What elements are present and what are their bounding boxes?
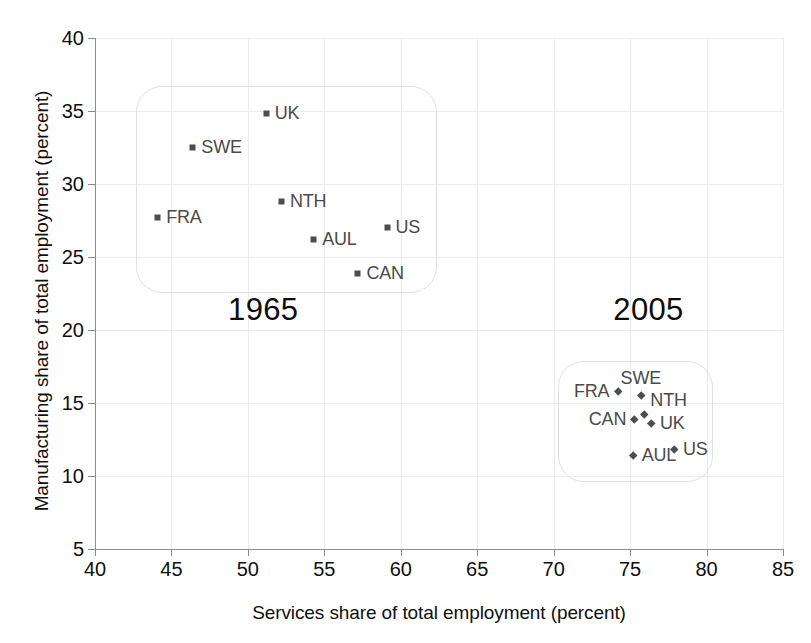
y-tick-label: 40 [62,27,84,50]
x-tick [248,549,249,556]
x-tick-label: 70 [543,558,565,581]
point-label: FRA [574,381,609,402]
marker-square-icon [311,236,317,242]
y-tick-label: 30 [62,173,84,196]
point-label: AUL [642,445,676,466]
point-label: UK [275,103,300,124]
x-tick [324,549,325,556]
plot-area: 510152025303540 40455055606570758085 196… [95,38,783,549]
group-caption-2005: 2005 [613,292,683,328]
point-label: NTH [650,389,686,410]
x-axis-line [95,549,784,550]
data-point-2005-NTH[interactable]: NTH [643,414,644,415]
x-tick-label: 65 [466,558,488,581]
y-tick-label: 20 [62,319,84,342]
y-axis-line [95,38,96,550]
marker-square-icon [263,111,269,117]
data-point-2005-CAN[interactable]: CAN [634,419,635,420]
data-point-1965-UK[interactable]: UK [266,113,267,114]
y-tick [88,111,95,112]
scatter-chart: Manufacturing share of total employment … [0,0,811,643]
x-tick [783,549,784,556]
y-tick-label: 25 [62,246,84,269]
x-tick-label: 85 [772,558,794,581]
y-tick [88,257,95,258]
marker-square-icon [155,215,161,221]
point-label: SWE [621,367,661,388]
x-axis-title: Services share of total employment (perc… [95,602,783,624]
marker-square-icon [384,225,390,231]
x-tick [707,549,708,556]
point-label: FRA [166,207,201,228]
y-tick-label: 35 [62,100,84,123]
y-tick-label: 5 [73,538,84,561]
data-point-1965-AUL[interactable]: AUL [313,239,314,240]
x-tick [477,549,478,556]
x-tick-label: 45 [160,558,182,581]
marker-square-icon [279,199,285,205]
x-tick-label: 50 [237,558,259,581]
data-point-2005-AUL[interactable]: AUL [633,455,634,456]
y-tick-label: 10 [62,465,84,488]
point-label: CAN [589,409,626,430]
data-point-2005-FRA[interactable]: FRA [617,391,618,392]
marker-square-icon [190,145,196,151]
data-point-1965-US[interactable]: US [387,227,388,228]
y-tick [88,38,95,39]
point-label: US [396,217,421,238]
point-label: US [683,439,708,460]
point-label: SWE [201,137,241,158]
point-label: UK [660,413,685,434]
x-tick-label: 75 [619,558,641,581]
y-tick [88,403,95,404]
data-point-1965-SWE[interactable]: SWE [192,147,193,148]
y-tick [88,184,95,185]
x-tick-label: 40 [84,558,106,581]
x-tick-label: 60 [390,558,412,581]
point-label: NTH [290,191,326,212]
point-label: CAN [366,263,403,284]
marker-square-icon [355,270,361,276]
data-point-2005-UK[interactable]: UK [651,423,652,424]
y-axis-title: Manufacturing share of total employment … [31,41,53,561]
gridline-vertical [707,38,708,550]
x-tick [95,549,96,556]
x-tick-label: 80 [695,558,717,581]
y-tick-label: 15 [62,392,84,415]
y-tick [88,476,95,477]
x-tick [401,549,402,556]
data-point-1965-CAN[interactable]: CAN [357,273,358,274]
x-tick-label: 55 [313,558,335,581]
point-label: AUL [322,229,356,250]
data-point-1965-NTH[interactable]: NTH [281,201,282,202]
gridline-vertical [554,38,555,550]
y-tick [88,330,95,331]
y-tick [88,549,95,550]
data-point-1965-FRA[interactable]: FRA [157,217,158,218]
group-caption-1965: 1965 [228,292,298,328]
gridline-horizontal [95,330,784,331]
x-tick [554,549,555,556]
x-tick [171,549,172,556]
gridline-vertical [783,38,784,550]
gridline-vertical [477,38,478,550]
x-tick [630,549,631,556]
data-point-2005-SWE[interactable]: SWE [640,395,641,396]
gridline-horizontal [95,38,784,39]
